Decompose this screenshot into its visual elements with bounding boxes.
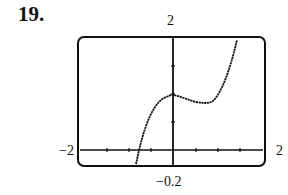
ymin-label: −0.2 <box>156 175 181 189</box>
function-curve <box>136 40 237 164</box>
xmax-label: 2 <box>276 144 283 158</box>
viewing-window-frame <box>78 37 265 166</box>
ymax-label: 2 <box>167 14 174 28</box>
xmin-label: −2 <box>59 144 74 158</box>
graph <box>0 0 288 195</box>
